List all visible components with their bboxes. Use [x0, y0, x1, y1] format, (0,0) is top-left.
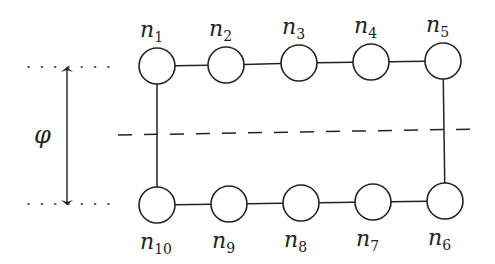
node-circle [425, 43, 461, 79]
ring-nodes: n1n2n3n4n5n6n7n8n9n10 [139, 12, 463, 257]
node-circle [427, 183, 463, 219]
dashed-line [118, 129, 480, 135]
node-n8: n8 [283, 185, 319, 255]
node-n7: n7 [355, 184, 391, 254]
node-label: n6 [428, 225, 451, 253]
diagram-canvas: n1n2n3n4n5n6n7n8n9n10 φ [0, 0, 495, 264]
node-n10: n10 [139, 187, 175, 257]
node-n6: n6 [427, 183, 463, 253]
node-label: n2 [209, 16, 232, 44]
node-n2: n2 [208, 16, 244, 83]
node-n3: n3 [281, 14, 317, 81]
node-circle [208, 47, 244, 83]
edge-n5-n6 [443, 61, 445, 201]
node-circle [139, 187, 175, 223]
node-label: n1 [140, 17, 163, 45]
node-n4: n4 [353, 13, 389, 80]
node-circle [139, 48, 175, 84]
node-circle [355, 184, 391, 220]
node-circle [353, 44, 389, 80]
node-n5: n5 [425, 12, 461, 79]
phi-label: φ [34, 121, 51, 149]
node-circle [211, 186, 247, 222]
ring-diagram: n1n2n3n4n5n6n7n8n9n10 φ [0, 0, 495, 264]
node-label: n10 [140, 229, 172, 257]
node-circle [283, 185, 319, 221]
node-label: n7 [356, 226, 379, 254]
node-label: n3 [282, 14, 305, 42]
dashed-axis-line [118, 129, 480, 135]
node-n1: n1 [139, 17, 175, 84]
node-circle [281, 45, 317, 81]
node-label: n9 [212, 228, 235, 256]
node-label: n5 [426, 12, 449, 40]
node-label: n8 [284, 227, 307, 255]
node-label: n4 [354, 13, 377, 41]
node-n9: n9 [211, 186, 247, 256]
